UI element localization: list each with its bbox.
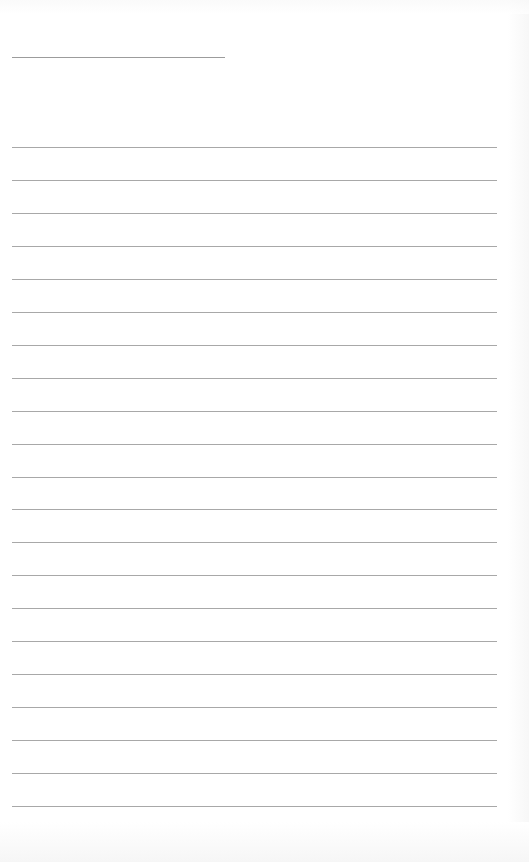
ruled-line — [12, 378, 497, 379]
ruled-line — [12, 806, 497, 807]
ruled-line — [12, 147, 497, 148]
notebook-page — [0, 0, 529, 862]
ruled-line — [12, 246, 497, 247]
ruled-line — [12, 608, 497, 609]
ruled-line — [12, 411, 497, 412]
bottom-shadow — [0, 822, 529, 862]
ruled-line — [12, 279, 497, 280]
ruled-line — [12, 509, 497, 510]
ruled-line — [12, 773, 497, 774]
ruled-line — [12, 477, 497, 478]
ruled-line — [12, 575, 497, 576]
ruled-line — [12, 707, 497, 708]
ruled-line — [12, 312, 497, 313]
ruled-line — [12, 641, 497, 642]
ruled-line — [12, 345, 497, 346]
ruled-line — [12, 213, 497, 214]
ruled-line — [12, 740, 497, 741]
ruled-line — [12, 542, 497, 543]
ruled-line — [12, 180, 497, 181]
header-title-line — [12, 57, 225, 58]
ruled-line — [12, 444, 497, 445]
bleed-through-shadow — [0, 0, 529, 14]
ruled-line — [12, 674, 497, 675]
